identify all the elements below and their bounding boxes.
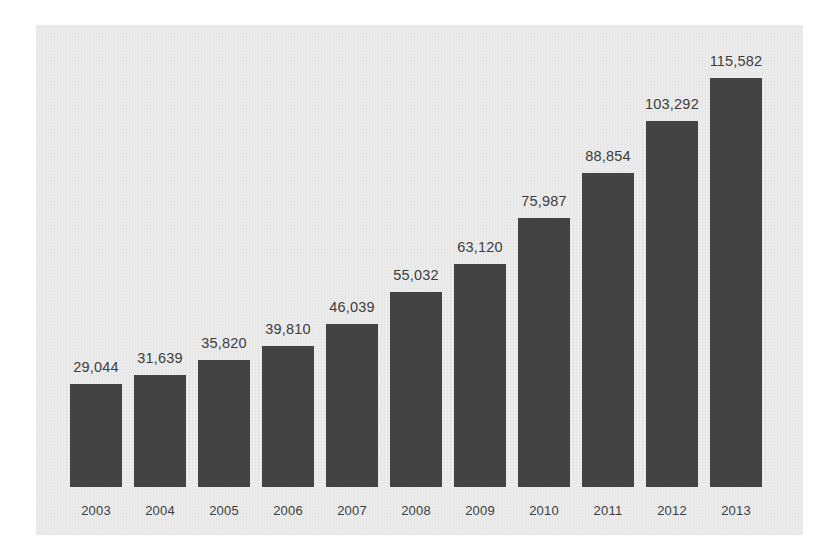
bar-group: 75,9872010	[518, 0, 570, 560]
bar	[198, 360, 250, 487]
bar-group: 35,8202005	[198, 0, 250, 560]
bar	[134, 375, 186, 487]
bar	[262, 346, 314, 487]
bar	[582, 173, 634, 487]
bar-group: 29,0442003	[70, 0, 122, 560]
bar-value-label: 46,039	[312, 299, 392, 315]
bar	[454, 264, 506, 487]
bar	[518, 218, 570, 487]
bar-group: 31,6392004	[134, 0, 186, 560]
bar-value-label: 31,639	[120, 350, 200, 366]
bar	[390, 292, 442, 487]
bar-group: 39,8102006	[262, 0, 314, 560]
bar	[70, 384, 122, 487]
bar-value-label: 75,987	[504, 193, 584, 209]
bar-value-label: 55,032	[376, 267, 456, 283]
bar-group: 88,8542011	[582, 0, 634, 560]
chart-screenshot: 29,044200331,639200435,820200539,8102006…	[0, 0, 836, 560]
bar-value-label: 63,120	[440, 239, 520, 255]
bar-value-label: 88,854	[568, 148, 648, 164]
bar-value-label: 35,820	[184, 335, 264, 351]
bar-group: 55,0322008	[390, 0, 442, 560]
bar-group: 46,0392007	[326, 0, 378, 560]
bar	[710, 78, 762, 487]
bar-value-label: 103,292	[632, 96, 712, 112]
bar-group: 115,5822013	[710, 0, 762, 560]
bar	[326, 324, 378, 487]
bar-value-label: 115,582	[696, 53, 776, 69]
bar-group: 103,2922012	[646, 0, 698, 560]
bar-value-label: 39,810	[248, 321, 328, 337]
bar-group: 63,1202009	[454, 0, 506, 560]
bar	[646, 121, 698, 487]
x-axis-tick-label: 2013	[696, 503, 776, 518]
bar-chart-plot-area: 29,044200331,639200435,820200539,8102006…	[0, 0, 836, 560]
